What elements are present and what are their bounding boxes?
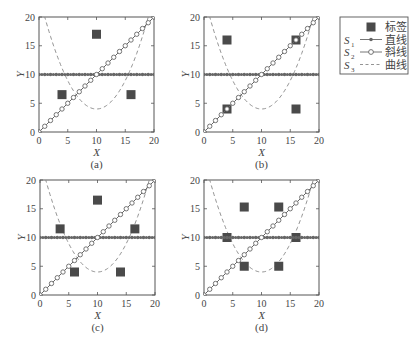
series-s1-marker bbox=[277, 236, 281, 240]
series-s2-marker bbox=[282, 212, 286, 216]
panel-d: 0510152005101520XY(d) bbox=[179, 158, 324, 334]
series-s1-marker bbox=[147, 236, 151, 240]
series-s2-marker bbox=[129, 38, 133, 42]
series-s2-marker bbox=[265, 67, 269, 71]
label-marker bbox=[292, 105, 301, 114]
x-axis-label: X bbox=[92, 146, 101, 158]
series-s2-marker bbox=[208, 287, 212, 291]
series-s2-marker bbox=[300, 195, 304, 199]
series-s1-marker bbox=[219, 73, 223, 77]
label-marker bbox=[223, 36, 232, 45]
y-tick-label: 20 bbox=[26, 175, 36, 186]
series-s1-marker bbox=[277, 73, 281, 77]
series-s2-marker bbox=[67, 264, 71, 268]
series-s1-marker bbox=[83, 73, 87, 77]
series-s1-marker bbox=[283, 73, 287, 77]
y-tick-label: 20 bbox=[190, 175, 200, 186]
series-s2-marker bbox=[265, 230, 269, 234]
series-s2-marker bbox=[49, 281, 53, 285]
x-tick-label: 5 bbox=[65, 135, 70, 146]
series-s1-marker bbox=[202, 236, 206, 240]
series-s1-marker bbox=[300, 73, 304, 77]
panels: 0510152005101520XY(a)0510152005101520XY(… bbox=[14, 0, 324, 334]
y-tick-label: 5 bbox=[195, 98, 200, 109]
series-s2-marker bbox=[77, 90, 81, 94]
series-s2-marker bbox=[106, 61, 110, 65]
series-s1-marker bbox=[38, 236, 42, 240]
series-s2-marker bbox=[43, 124, 47, 128]
x-tick-label: 10 bbox=[257, 135, 267, 146]
series-s1-marker bbox=[288, 236, 292, 240]
x-tick-label: 15 bbox=[285, 135, 295, 146]
series-s1-marker bbox=[90, 236, 94, 240]
series-s2-marker bbox=[311, 21, 315, 25]
x-tick-label: 20 bbox=[314, 298, 324, 309]
series-s1-marker bbox=[43, 73, 47, 77]
series-s2-marker bbox=[71, 95, 75, 99]
series-s2-marker bbox=[219, 113, 223, 117]
series-s1-marker bbox=[129, 73, 133, 77]
series-s1-marker bbox=[294, 236, 298, 240]
series-s2-marker bbox=[202, 293, 206, 297]
y-tick-label: 15 bbox=[190, 203, 200, 214]
x-tick-label: 10 bbox=[257, 298, 267, 309]
y-tick-label: 0 bbox=[30, 127, 35, 138]
series-s2-marker bbox=[118, 212, 122, 216]
series-s2-marker bbox=[225, 107, 229, 111]
series-s2-marker bbox=[112, 55, 116, 59]
series-s2-marker bbox=[48, 118, 52, 122]
series-s2-marker bbox=[113, 218, 117, 222]
panel-caption: (a) bbox=[90, 158, 103, 171]
label-marker bbox=[93, 196, 102, 205]
series-s2-marker bbox=[294, 38, 298, 42]
series-s1-marker bbox=[254, 236, 258, 240]
y-tick-label: 0 bbox=[31, 290, 36, 301]
series-s1-marker bbox=[219, 236, 223, 240]
series-s1-marker bbox=[106, 73, 110, 77]
series-s2-marker bbox=[213, 118, 217, 122]
y-tick-label: 15 bbox=[25, 40, 35, 51]
series-s1-marker bbox=[123, 73, 127, 77]
series-s2-marker bbox=[236, 95, 240, 99]
legend-symbol: S bbox=[344, 59, 350, 71]
x-tick-label: 0 bbox=[37, 135, 42, 146]
y-tick-label: 0 bbox=[195, 127, 200, 138]
series-s2-marker bbox=[140, 26, 144, 30]
series-s1-marker bbox=[283, 236, 287, 240]
series-s2-marker bbox=[124, 207, 128, 211]
series-s1-marker bbox=[89, 73, 93, 77]
series-s2-marker bbox=[123, 44, 127, 48]
series-s1-marker bbox=[49, 73, 53, 77]
legend-symbol: S bbox=[344, 34, 350, 46]
series-s2-marker bbox=[305, 189, 309, 193]
series-s1-marker bbox=[152, 73, 156, 77]
series-s2-marker bbox=[72, 258, 76, 262]
y-tick-label: 20 bbox=[190, 12, 200, 23]
series-s1-marker bbox=[300, 236, 304, 240]
x-tick-label: 15 bbox=[120, 135, 130, 146]
series-s1-marker bbox=[107, 236, 111, 240]
series-s2-marker bbox=[101, 230, 105, 234]
y-tick-label: 10 bbox=[190, 69, 200, 80]
series-s2-marker bbox=[141, 189, 145, 193]
series-s2-marker bbox=[277, 218, 281, 222]
series-s2-marker bbox=[288, 44, 292, 48]
series-s2-marker bbox=[231, 264, 235, 268]
y-tick-label: 10 bbox=[26, 232, 36, 243]
x-axis-label: X bbox=[257, 146, 266, 158]
panel-a: 0510152005101520XY(a) bbox=[14, 0, 159, 171]
x-tick-label: 15 bbox=[121, 298, 131, 309]
series-s2-marker bbox=[94, 72, 98, 76]
y-tick-label: 0 bbox=[195, 290, 200, 301]
x-axis-label: X bbox=[93, 309, 102, 321]
series-s2-marker bbox=[219, 276, 223, 280]
series-s1-marker bbox=[84, 236, 88, 240]
series-s2-marker bbox=[37, 130, 41, 134]
series-s1-marker bbox=[78, 236, 82, 240]
legend-square-icon bbox=[367, 23, 376, 32]
series-s1-marker bbox=[208, 73, 212, 77]
series-s2-marker bbox=[117, 49, 121, 53]
series-s1-marker bbox=[101, 236, 105, 240]
series-s2-marker bbox=[66, 101, 70, 105]
label-marker bbox=[116, 268, 125, 277]
